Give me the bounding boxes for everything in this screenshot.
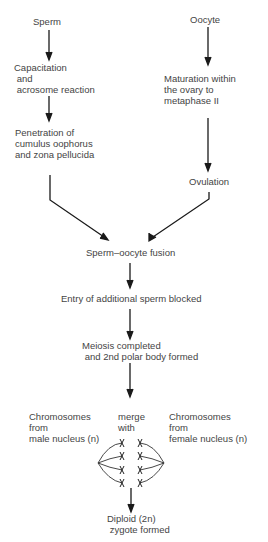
label-meiosis: Meiosis completed and 2nd polar body for… xyxy=(82,340,198,362)
label-female-chromosomes: Chromosomes from female nucleus (n) xyxy=(169,411,247,444)
label-zygote: Diploid (2n) zygote formed xyxy=(107,513,170,535)
chromosomes xyxy=(120,439,142,487)
label-fusion: Sperm–oocyte fusion xyxy=(86,247,175,258)
male-spindle xyxy=(98,443,122,483)
label-oocyte: Oocyte xyxy=(190,14,220,25)
label-block: Entry of additional sperm blocked xyxy=(61,293,201,304)
label-capacitation: Capacitation and acrosome reaction xyxy=(14,62,95,95)
female-spindle xyxy=(140,443,164,483)
label-sperm: Sperm xyxy=(33,16,61,27)
label-male-chromosomes: Chromosomes from male nucleus (n) xyxy=(29,411,99,444)
arrow-penetration-fusion xyxy=(50,175,107,239)
label-maturation: Maturation within the ovary to metaphase… xyxy=(164,73,236,106)
arrow-ovulation-fusion xyxy=(150,192,209,239)
label-merge-with: merge with xyxy=(118,411,145,433)
label-penetration: Penetration of cumulus oophorus and zona… xyxy=(15,127,94,160)
label-ovulation: Ovulation xyxy=(189,176,229,187)
